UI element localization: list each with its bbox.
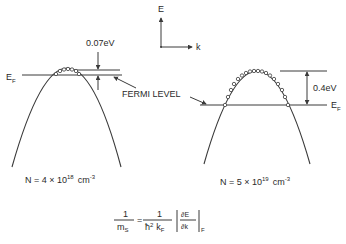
formula-eval-subscript: F [201,227,205,233]
right-density-label: N = 5 × 1019cm-3 [220,176,291,187]
formula-lhs-numerator: 1 [123,209,128,219]
formula-lhs-denominator: mS [117,222,129,233]
formula-equals: = [137,215,142,225]
formula-derivative-numerator: ∂E [181,211,189,218]
effective-mass-formula: 1 mS = 1 ħ2kF ∂E ∂k F [114,209,205,233]
axes-origin [160,46,162,48]
left-fermi-label: EF [6,72,16,84]
left-electrons [54,67,80,75]
fermi-arrow-right [190,97,206,104]
left-band: 0.07eV EF N = 4 × 1018cm-3 [6,38,122,185]
energy-axis-label: E [158,4,164,14]
fermi-level-label: FERMI LEVEL [122,89,181,99]
right-parabola [204,71,310,164]
right-band: 0.4eV EF N = 5 × 1019cm-3 [200,69,341,187]
left-gap-label: 0.07eV [86,38,115,48]
formula-derivative-denominator: ∂k [181,223,188,230]
formula-rhs-numerator: 1 [157,209,162,219]
right-fermi-label: EF [331,100,341,112]
right-gap-label: 0.4eV [313,83,337,93]
k-axis-label: k [196,42,201,52]
fermi-level-annotation: FERMI LEVEL [114,77,206,104]
left-density-label: N = 4 × 1018cm-3 [25,174,96,185]
fermi-arrow-left [114,77,136,88]
left-parabola [12,68,121,167]
band-diagram: E k 0.07eV EF N = 4 × 1018cm-3 FERMI [0,0,346,244]
formula-rhs-denominator: ħ2kF [145,222,165,233]
e-k-axes: E k [158,4,201,52]
